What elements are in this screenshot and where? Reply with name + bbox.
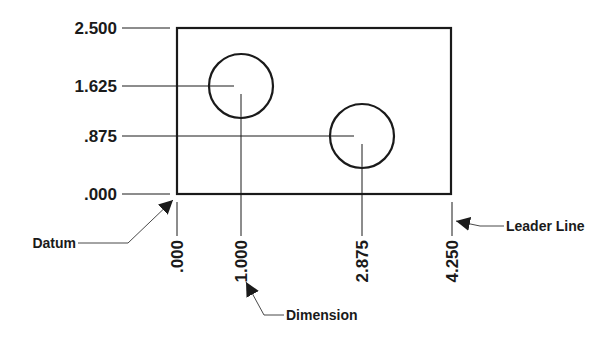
part-outline [177, 28, 451, 194]
y-label-1625: 1.625 [74, 77, 117, 96]
y-label-0000: .000 [84, 185, 117, 204]
x-label-4250: 4.250 [443, 240, 462, 283]
datum-callout-label: Datum [32, 235, 76, 251]
leader-line-callout-label: Leader Line [506, 218, 585, 234]
datum-leader [78, 200, 173, 243]
x-label-0000: .000 [168, 240, 187, 273]
dimension-callout-label: Dimension [286, 307, 358, 323]
y-label-2500: 2.500 [74, 19, 117, 38]
y-label-0875: .875 [84, 127, 117, 146]
dimension-leader [246, 282, 284, 315]
leader-line-leader [456, 221, 504, 226]
baseline-dimension-diagram: 2.500 1.625 .875 .000 .000 1.000 2.875 4… [0, 0, 614, 337]
x-label-2875: 2.875 [353, 240, 372, 283]
x-label-1000: 1.000 [232, 240, 251, 283]
